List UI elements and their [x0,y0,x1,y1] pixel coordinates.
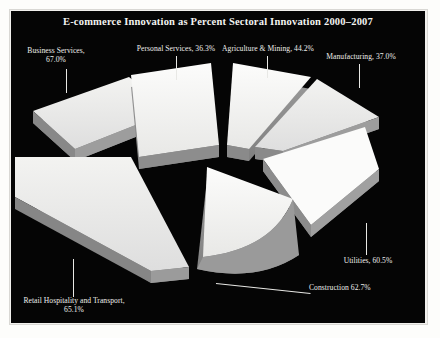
chart-page: E-commerce Innovation as Percent Sectora… [0,0,440,338]
leader-line-manufacturing [359,64,360,88]
pie-slice-personal-services[interactable] [131,63,219,169]
leader-line-utilities [366,223,367,255]
slice-top-personal-services [131,63,219,157]
leader-line-business-services [66,69,67,93]
chart-canvas: E-commerce Innovation as Percent Sectora… [11,11,425,323]
pie-slice-retail-hospitality-transport[interactable] [15,157,189,283]
label-manufacturing: Manufacturing, 37.0% [307,52,415,61]
label-construction: Construction 62.7% [309,283,419,292]
leader-line-retail [73,259,74,297]
label-business-services: Business Services, 67.0% [17,46,95,64]
leader-line-personal-services [176,56,177,80]
leader-line-agriculture-mining [267,56,268,78]
label-retail-hospitality-transport: Retail Hospitality and Transport, 65.1% [16,296,132,314]
label-utilities: Utilities, 60.5% [324,256,412,265]
